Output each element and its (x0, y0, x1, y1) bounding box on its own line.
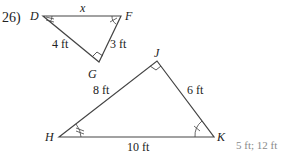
side-dg-label: 4 ft (52, 37, 69, 51)
side-df-label: x (79, 1, 86, 15)
vertex-j-label: J (154, 46, 160, 60)
triangle-hjk (59, 61, 214, 137)
answer-text: 5 ft; 12 ft (236, 139, 277, 151)
vertex-g-label: G (88, 67, 97, 81)
similar-triangles-diagram: 26) D F G x 4 ft 3 ft H J K 8 ft 6 ft 10… (0, 0, 287, 159)
vertex-k-label: K (216, 130, 226, 144)
side-hk-label: 10 ft (127, 140, 150, 154)
side-hj-label: 8 ft (93, 83, 110, 97)
angle-arc-k (195, 121, 202, 137)
vertex-d-label: D (29, 9, 39, 23)
vertex-f-label: F (124, 9, 133, 23)
angle-arc-h (76, 124, 81, 137)
right-angle-marker-j (150, 66, 161, 70)
side-gf-label: 3 ft (110, 37, 127, 51)
vertex-h-label: H (44, 130, 55, 144)
side-jk-label: 6 ft (187, 83, 204, 97)
problem-number: 26) (2, 10, 21, 26)
